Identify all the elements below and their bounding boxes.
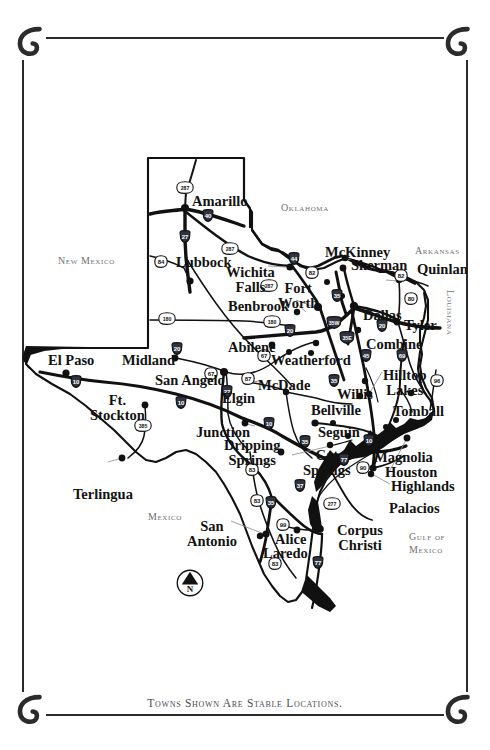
region-label: Arkansas [415,246,460,256]
map-caption: Towns Shown Are Stable Locations. [0,697,490,709]
region-label: Mexico [409,545,443,555]
region-label-layer: New MexicoOklahomaArkansasLouisianaMexic… [0,0,490,750]
compass-north-icon: N [175,568,205,598]
region-label: New Mexico [58,256,115,266]
compass-label: N [187,584,194,594]
region-label: Mexico [148,512,182,522]
map-page: 28740278428744828228735801801802035W35E2… [0,0,490,750]
region-label: Louisiana [445,290,455,335]
region-label: Oklahoma [281,203,329,213]
region-label: Gulf of [409,532,445,542]
